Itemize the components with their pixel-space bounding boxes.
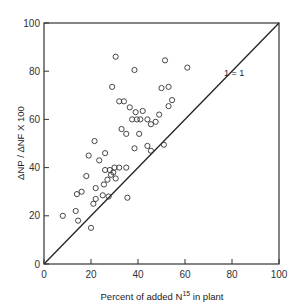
y-tick-label: 100 — [23, 18, 40, 29]
data-point — [92, 138, 97, 143]
data-point — [185, 65, 190, 70]
data-point — [84, 173, 89, 178]
y-tick-label: 20 — [29, 210, 41, 221]
data-point — [101, 182, 106, 187]
data-point — [125, 195, 130, 200]
data-point — [161, 142, 166, 147]
data-point — [74, 192, 79, 197]
data-point — [132, 67, 137, 72]
y-tick-label: 40 — [29, 162, 41, 173]
data-point — [169, 98, 174, 103]
data-point — [113, 54, 118, 59]
y-tick-label: 80 — [29, 66, 41, 77]
data-point — [159, 85, 164, 90]
data-point — [60, 213, 65, 218]
x-tick-label: 100 — [271, 269, 288, 280]
data-point — [166, 84, 171, 89]
data-point — [100, 193, 105, 198]
data-point — [127, 105, 132, 110]
y-axis-ticks: 020406080100 — [23, 18, 49, 270]
y-axis-label: ΔNP / ΔNF X 100 — [15, 106, 26, 180]
y-tick-label: 60 — [29, 114, 41, 125]
x-axis-label-main: Percent of added N — [101, 291, 183, 302]
data-points — [60, 54, 190, 230]
scatter-chart: 020406080100 020406080100 1 = 1 Percent … — [0, 0, 304, 308]
data-point — [75, 218, 80, 223]
x-tick-label: 40 — [132, 269, 144, 280]
data-point — [91, 201, 96, 206]
data-point — [103, 151, 108, 156]
data-point — [110, 84, 115, 89]
data-point — [162, 58, 167, 63]
data-point — [133, 110, 138, 115]
data-point — [86, 153, 91, 158]
x-tick-label: 0 — [41, 269, 47, 280]
data-point — [124, 165, 129, 170]
x-axis-label-suffix: in plant — [190, 291, 224, 302]
data-point — [145, 117, 150, 122]
data-point — [124, 131, 129, 136]
x-axis-label-superscript: 15 — [182, 290, 190, 297]
data-point — [145, 143, 150, 148]
data-point — [138, 117, 143, 122]
data-point — [97, 158, 102, 163]
x-axis-ticks: 020406080100 — [41, 259, 288, 280]
data-point — [93, 185, 98, 190]
data-point — [113, 176, 118, 181]
one-to-one-label: 1 = 1 — [224, 68, 244, 78]
data-point — [166, 104, 171, 109]
data-point — [148, 148, 153, 153]
data-point — [73, 208, 78, 213]
x-tick-label: 60 — [179, 269, 191, 280]
data-point — [88, 225, 93, 230]
data-point — [157, 112, 162, 117]
x-axis-label: Percent of added N15 in plant — [101, 290, 224, 302]
data-point — [132, 146, 137, 151]
data-point — [140, 108, 145, 113]
data-point — [119, 126, 124, 131]
y-tick-label: 0 — [34, 259, 40, 270]
data-point — [153, 119, 158, 124]
x-tick-label: 80 — [226, 269, 238, 280]
data-point — [137, 131, 142, 136]
data-point — [105, 177, 110, 182]
x-tick-label: 20 — [85, 269, 97, 280]
